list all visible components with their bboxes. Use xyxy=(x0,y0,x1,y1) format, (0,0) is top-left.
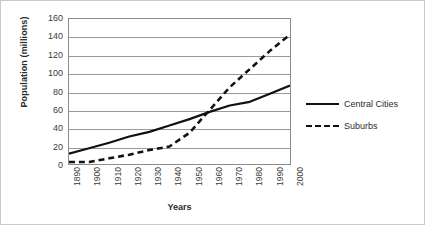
legend-item-central-cities[interactable]: Central Cities xyxy=(306,93,421,115)
chart-figure: Population (millions) 020406080100120140… xyxy=(0,0,425,225)
series-lines xyxy=(69,19,290,165)
y-tick-label: 20 xyxy=(53,142,63,152)
y-tick-label: 140 xyxy=(48,31,63,41)
y-tick-label: 100 xyxy=(48,68,63,78)
x-tick-label: 1930 xyxy=(153,167,163,186)
y-tick-label: 0 xyxy=(58,160,63,170)
legend-item-suburbs[interactable]: Suburbs xyxy=(306,115,421,137)
x-tick-label: 1960 xyxy=(214,167,224,186)
x-axis-tick-labels: 1890190019101920193019401950196019701980… xyxy=(68,167,291,201)
y-tick-label: 80 xyxy=(53,87,63,97)
y-tick-label: 40 xyxy=(53,123,63,133)
dashed-line-icon xyxy=(306,121,339,131)
chart-legend: Central CitiesSuburbs xyxy=(306,93,421,137)
y-tick-label: 120 xyxy=(48,50,63,60)
solid-line-icon xyxy=(306,99,339,109)
x-tick-label: 1990 xyxy=(275,167,285,186)
x-tick-label: 1980 xyxy=(254,167,264,186)
legend-item-label: Suburbs xyxy=(344,121,378,131)
x-tick-label: 1890 xyxy=(72,167,82,186)
y-axis-tick-labels: 020406080100120140160 xyxy=(29,18,63,165)
y-axis-title: Population (millions) xyxy=(19,0,29,137)
x-axis-title: Years xyxy=(68,202,291,212)
x-tick-label: 1950 xyxy=(194,167,204,186)
x-tick-label: 1900 xyxy=(92,167,102,186)
x-tick-label: 2000 xyxy=(295,167,305,186)
series-line-central-cities xyxy=(69,85,290,153)
legend-item-label: Central Cities xyxy=(344,99,398,109)
x-tick-label: 1920 xyxy=(133,167,143,186)
y-tick-label: 60 xyxy=(53,105,63,115)
plot-area xyxy=(68,18,291,165)
x-tick-label: 1940 xyxy=(173,167,183,186)
x-tick-label: 1910 xyxy=(113,167,123,186)
x-tick-label: 1970 xyxy=(234,167,244,186)
y-tick-label: 160 xyxy=(48,13,63,23)
